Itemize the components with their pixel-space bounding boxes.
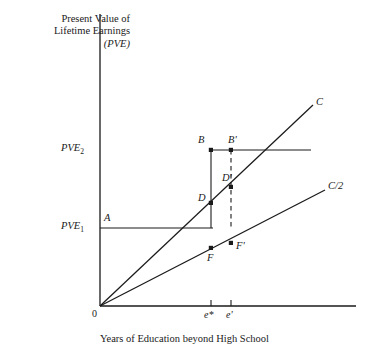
y-tick-label-pve2: PVE2 (61, 142, 84, 157)
point-label-b: B (198, 134, 204, 146)
point-label-f: F (207, 252, 213, 264)
pve1-sub: 1 (80, 225, 84, 234)
curve-c-line (100, 105, 313, 306)
point-marker-b-prime (229, 148, 233, 152)
x-tick-label-e-star: e* (204, 309, 213, 321)
point-marker-d-prime (229, 185, 233, 189)
curve-label-c-half: C/2 (328, 180, 343, 192)
origin-label: 0 (92, 308, 97, 320)
point-marker-f-prime (229, 241, 233, 245)
pve1-main: PVE (61, 220, 80, 231)
point-label-d: D (198, 192, 206, 204)
plot-canvas (0, 0, 369, 354)
point-marker-b (209, 148, 213, 152)
y-tick-label-pve1: PVE1 (61, 220, 84, 235)
point-label-f-prime: F' (236, 240, 245, 252)
y-axis-title-line1: Present Value of (8, 13, 130, 25)
y-axis-title: Present Value of Lifetime Earnings (PVE) (8, 13, 130, 50)
x-axis-title: Years of Education beyond High School (0, 333, 369, 345)
point-label-a: A (104, 212, 110, 224)
curve-label-c: C (316, 96, 323, 108)
y-axis-title-line2: Lifetime Earnings (8, 25, 130, 37)
pve2-sub: 2 (80, 147, 84, 156)
point-marker-f (209, 246, 213, 250)
point-label-b-prime: B' (228, 134, 237, 146)
x-tick-label-e-prime: e' (226, 309, 233, 321)
pve2-main: PVE (61, 142, 80, 153)
point-marker-d (209, 201, 213, 205)
economics-diagram-figure: Present Value of Lifetime Earnings (PVE)… (0, 0, 369, 354)
y-axis-title-line3: (PVE) (8, 38, 130, 50)
point-label-d-prime: D' (222, 172, 232, 184)
